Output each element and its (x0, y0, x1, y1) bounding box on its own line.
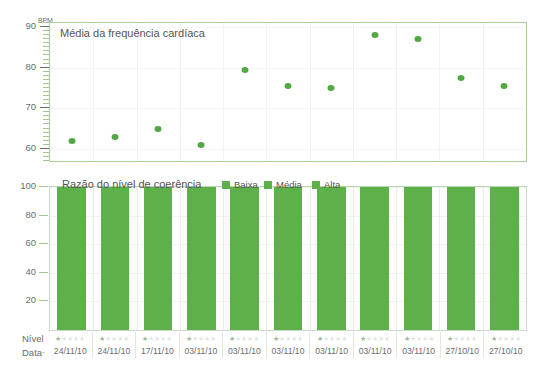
star-rating-icon: ★★★★★ (142, 335, 172, 342)
legend-item-baixa[interactable]: Baixa (222, 179, 258, 190)
nivel-cell[interactable]: ★★★★★ (222, 332, 266, 345)
bar-segment[interactable] (447, 187, 476, 220)
scatter-point[interactable] (328, 85, 335, 91)
bar-segment[interactable] (447, 233, 476, 330)
nivel-row: ★★★★★★★★★★★★★★★★★★★★★★★★★★★★★★★★★★★★★★★★… (49, 332, 527, 345)
legend-label: Baixa (234, 179, 258, 190)
bar-column-separator (180, 187, 181, 330)
star-rating-icon: ★★★★★ (491, 335, 521, 342)
nivel-cell[interactable]: ★★★★★ (483, 332, 527, 345)
bar-segment[interactable] (317, 214, 346, 225)
star-rating-icon: ★★★★★ (360, 335, 390, 342)
scatter-point[interactable] (68, 138, 75, 144)
nivel-cell[interactable]: ★★★★★ (135, 332, 179, 345)
bar-segment[interactable] (187, 206, 216, 243)
stacked-bar[interactable] (57, 187, 86, 330)
data-cell[interactable]: 03/11/10 (179, 345, 223, 358)
bar-column-separator (353, 187, 354, 330)
stacked-bar[interactable] (144, 187, 173, 330)
stacked-bar[interactable] (490, 187, 519, 330)
bar-segment[interactable] (144, 187, 173, 223)
data-cell[interactable]: 27/10/10 (483, 345, 527, 358)
bar-y-tick-label: 40 (8, 267, 36, 277)
scatter-point[interactable] (458, 75, 465, 81)
legend-swatch-icon (312, 181, 320, 189)
stacked-bar[interactable] (274, 187, 303, 330)
nivel-cell[interactable]: ★★★★★ (179, 332, 223, 345)
data-cell[interactable]: 03/11/10 (222, 345, 266, 358)
bar-segment[interactable] (101, 240, 130, 269)
scatter-point[interactable] (285, 83, 292, 89)
data-cell[interactable]: 24/11/10 (49, 345, 92, 358)
scatter-point[interactable] (414, 36, 421, 42)
nivel-cell[interactable]: ★★★★★ (92, 332, 136, 345)
scatter-point[interactable] (155, 126, 162, 132)
bar-segment[interactable] (230, 204, 259, 227)
stacked-bar[interactable] (404, 187, 433, 330)
bar-segment[interactable] (447, 220, 476, 233)
bar-segment[interactable] (187, 243, 216, 330)
bar-y-tick-label: 100 (8, 181, 36, 191)
bar-segment[interactable] (317, 187, 346, 214)
nivel-cell[interactable]: ★★★★★ (309, 332, 353, 345)
scatter-point[interactable] (111, 134, 118, 140)
bar-segment[interactable] (490, 187, 519, 224)
nivel-cell[interactable]: ★★★★★ (440, 332, 484, 345)
bar-segment[interactable] (360, 227, 389, 330)
scatter-point[interactable] (501, 83, 508, 89)
nivel-cell[interactable]: ★★★★★ (266, 332, 310, 345)
data-cell[interactable]: 24/11/10 (92, 345, 136, 358)
bar-y-tick-label: 20 (8, 295, 36, 305)
bar-segment[interactable] (57, 317, 86, 324)
stacked-bar[interactable] (447, 187, 476, 330)
data-cell[interactable]: 03/11/10 (309, 345, 353, 358)
bar-segment[interactable] (274, 193, 303, 219)
stacked-bar[interactable] (230, 187, 259, 330)
bar-column-separator (310, 187, 311, 330)
nivel-cell[interactable]: ★★★★★ (49, 332, 92, 345)
bar-segment[interactable] (317, 226, 346, 330)
bar-column-separator (137, 187, 138, 330)
scatter-gridline-v (483, 23, 484, 161)
scatter-y-tick-label: 70 (10, 102, 36, 112)
data-cell[interactable]: 03/11/10 (396, 345, 440, 358)
legend-swatch-icon (222, 181, 230, 189)
bar-segment[interactable] (404, 200, 433, 243)
star-rating-icon: ★★★★★ (404, 335, 434, 342)
legend-item-alta[interactable]: Alta (312, 179, 340, 190)
bar-segment[interactable] (360, 187, 389, 200)
bar-segment[interactable] (57, 324, 86, 330)
scatter-point[interactable] (241, 67, 248, 73)
star-rating-icon: ★★★★★ (99, 335, 129, 342)
bar-segment[interactable] (490, 263, 519, 330)
bar-segment[interactable] (404, 243, 433, 330)
bar-segment[interactable] (230, 227, 259, 330)
bar-segment[interactable] (57, 187, 86, 317)
stacked-bar[interactable] (187, 187, 216, 330)
bar-segment[interactable] (101, 187, 130, 240)
legend-item-média[interactable]: Média (264, 179, 302, 190)
bar-segment[interactable] (101, 269, 130, 330)
data-cell[interactable]: 03/11/10 (266, 345, 310, 358)
bar-segment[interactable] (404, 187, 433, 200)
nivel-cell[interactable]: ★★★★★ (396, 332, 440, 345)
stacked-bar[interactable] (101, 187, 130, 330)
star-rating-icon: ★★★★★ (273, 335, 303, 342)
data-cell[interactable]: 17/11/10 (135, 345, 179, 358)
bar-axis-tick (39, 215, 48, 216)
bar-segment[interactable] (144, 251, 173, 330)
nivel-cell[interactable]: ★★★★★ (353, 332, 397, 345)
stacked-bar[interactable] (317, 187, 346, 330)
scatter-tick-ladder (40, 22, 49, 162)
bar-segment[interactable] (274, 218, 303, 330)
bar-segment[interactable] (144, 223, 173, 252)
bar-column-separator (223, 187, 224, 330)
stacked-bar[interactable] (360, 187, 389, 330)
data-cell[interactable]: 27/10/10 (440, 345, 484, 358)
scatter-point[interactable] (198, 142, 205, 148)
bar-segment[interactable] (490, 224, 519, 263)
scatter-point[interactable] (371, 32, 378, 38)
star-rating-icon: ★★★★★ (447, 335, 477, 342)
data-cell[interactable]: 03/11/10 (353, 345, 397, 358)
bar-segment[interactable] (360, 200, 389, 227)
